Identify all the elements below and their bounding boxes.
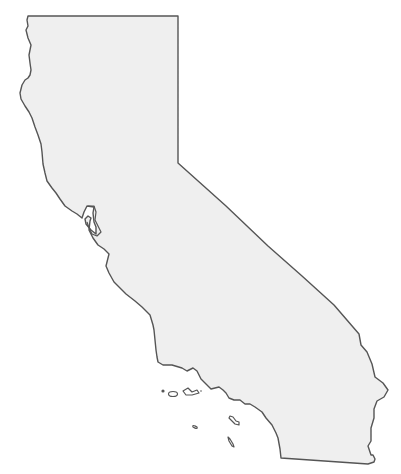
channel-island-san-miguel: [161, 389, 164, 392]
channel-island-santa-catalina: [229, 416, 239, 425]
channel-island-anacapa: [200, 390, 202, 392]
california-mainland-outline: [20, 16, 388, 464]
channel-island-san-clemente: [228, 437, 234, 447]
channel-island-santa-rosa: [169, 392, 178, 397]
channel-island-santa-barbara: [192, 425, 197, 429]
california-map: [0, 0, 401, 474]
channel-island-santa-cruz: [183, 388, 199, 395]
